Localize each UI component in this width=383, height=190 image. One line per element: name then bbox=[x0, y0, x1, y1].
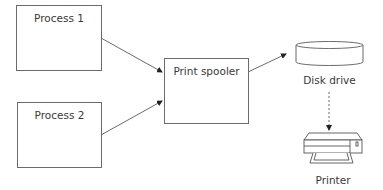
process-1-box: Process 1 bbox=[16, 5, 102, 71]
print-spooler-label: Print spooler bbox=[165, 65, 248, 77]
process-1-label: Process 1 bbox=[17, 12, 101, 24]
process-2-box: Process 2 bbox=[17, 102, 102, 168]
print-spooler-box: Print spooler bbox=[164, 58, 249, 124]
printer-icon bbox=[304, 133, 362, 163]
process-2-label: Process 2 bbox=[18, 109, 101, 121]
disk-drive-label: Disk drive bbox=[296, 74, 363, 86]
edge-spooler-to-disk bbox=[248, 54, 286, 72]
edge-process1-to-spooler bbox=[101, 38, 162, 72]
printer-label: Printer bbox=[303, 174, 363, 186]
edge-process2-to-spooler bbox=[101, 101, 162, 135]
disk-drive-icon bbox=[296, 42, 363, 66]
